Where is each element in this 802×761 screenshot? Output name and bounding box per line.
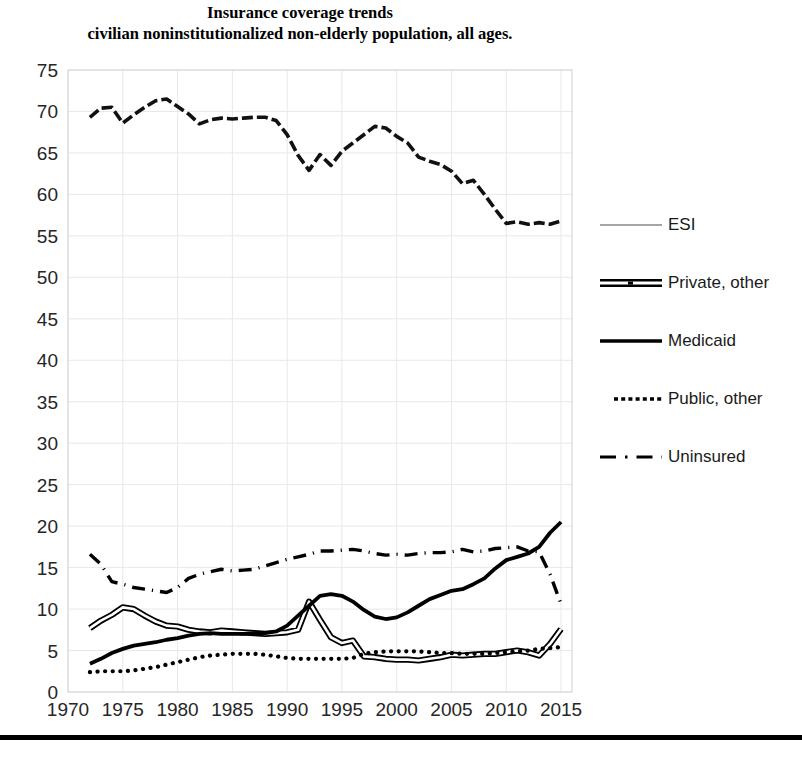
- legend-label-esi: ESI: [668, 215, 695, 235]
- legend-item-esi[interactable]: ESI: [600, 196, 800, 254]
- footer-rule: [0, 735, 802, 740]
- x-tick-label: 2015: [540, 699, 582, 720]
- legend-label-public-other: Public, other: [668, 389, 763, 409]
- axis-lines: [68, 70, 572, 692]
- legend-swatch-private-other: [600, 275, 662, 291]
- chart-figure: Insurance coverage trends civilian nonin…: [0, 0, 802, 761]
- y-tick-label: 35: [37, 392, 58, 413]
- legend-item-private-other[interactable]: Private, other: [600, 254, 800, 312]
- y-tick-label: 5: [47, 641, 58, 662]
- legend-label-uninsured: Uninsured: [668, 447, 746, 467]
- x-tick-label: 2005: [430, 699, 472, 720]
- chart-legend: ESI Private, other Medicaid Public, othe…: [600, 196, 800, 486]
- x-tick-label: 2000: [376, 699, 418, 720]
- x-tick-label: 2010: [485, 699, 527, 720]
- y-tick-label: 45: [37, 309, 58, 330]
- y-tick-label: 10: [37, 599, 58, 620]
- y-tick-label: 15: [37, 558, 58, 579]
- legend-swatch-public-other: [614, 391, 662, 407]
- legend-label-medicaid: Medicaid: [668, 331, 736, 351]
- y-tick-label: 60: [37, 184, 58, 205]
- y-tick-label: 70: [37, 101, 58, 122]
- y-tick-label: 65: [37, 143, 58, 164]
- x-tick-label: 1975: [102, 699, 144, 720]
- plot-frame: [68, 70, 572, 692]
- x-tick-label: 1995: [321, 699, 363, 720]
- legend-swatch-esi: [600, 217, 662, 233]
- y-tick-label: 30: [37, 433, 58, 454]
- legend-swatch-medicaid: [600, 333, 662, 349]
- x-tick-label: 1990: [266, 699, 308, 720]
- legend-label-private-other: Private, other: [668, 273, 769, 293]
- y-tick-label: 20: [37, 516, 58, 537]
- x-tick-label: 1980: [156, 699, 198, 720]
- legend-item-medicaid[interactable]: Medicaid: [600, 312, 800, 370]
- series-lines: [90, 99, 561, 672]
- y-axis-tick-labels: 051015202530354045505560657075: [37, 60, 58, 703]
- y-tick-label: 75: [37, 60, 58, 81]
- y-tick-label: 40: [37, 350, 58, 371]
- x-tick-label: 1970: [47, 699, 89, 720]
- y-tick-label: 25: [37, 475, 58, 496]
- x-axis-tick-labels: 1970197519801985199019952000200520102015: [47, 699, 582, 720]
- y-tick-label: 55: [37, 226, 58, 247]
- legend-item-public-other[interactable]: Public, other: [600, 370, 800, 428]
- series-line-esi: [90, 99, 561, 224]
- x-tick-label: 1985: [211, 699, 253, 720]
- legend-swatch-uninsured: [600, 449, 662, 465]
- y-tick-label: 50: [37, 267, 58, 288]
- gridlines: [68, 70, 572, 692]
- legend-item-uninsured[interactable]: Uninsured: [600, 428, 800, 486]
